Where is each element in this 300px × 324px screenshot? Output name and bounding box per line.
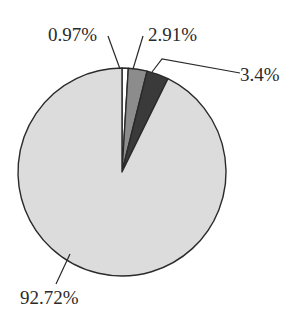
pie-slice-3 xyxy=(18,68,226,276)
slice-label-3: 92.72% xyxy=(20,287,79,308)
leader-line-2 xyxy=(152,59,240,73)
slice-label-1: 2.91% xyxy=(148,24,197,45)
slice-label-0: 0.97% xyxy=(48,24,97,45)
pie-chart: 0.97% 2.91% 3.4% 92.72% xyxy=(0,0,300,324)
pie-slices xyxy=(18,68,226,276)
leader-line-0 xyxy=(108,36,120,69)
leader-line-1 xyxy=(133,36,143,69)
slice-label-2: 3.4% xyxy=(240,64,280,85)
